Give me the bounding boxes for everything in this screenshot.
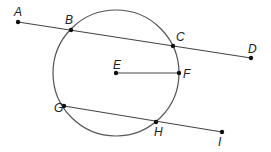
point-h (154, 120, 158, 124)
label-d: D (248, 42, 257, 56)
point-c (171, 44, 175, 48)
geometry-diagram: ABCDEFGHI (0, 0, 271, 152)
label-a: A (13, 5, 22, 19)
label-b: B (65, 13, 73, 27)
label-e: E (113, 58, 122, 72)
point-b (69, 28, 73, 32)
label-i: I (218, 135, 222, 149)
segment-gi (64, 106, 222, 132)
point-a (16, 20, 20, 24)
point-f (177, 71, 181, 75)
label-c: C (176, 30, 185, 44)
label-h: H (154, 125, 163, 139)
segment-ad (18, 22, 251, 58)
point-i (220, 130, 224, 134)
label-f: F (183, 67, 191, 81)
label-g: G (54, 101, 63, 115)
point-d (249, 56, 253, 60)
